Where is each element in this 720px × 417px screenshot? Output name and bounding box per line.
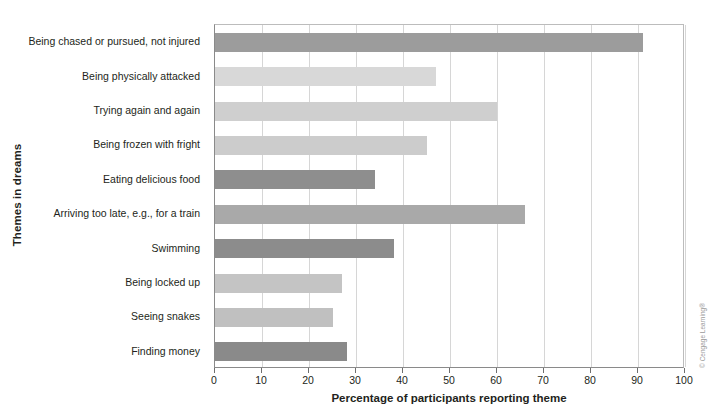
tick-mark-80 bbox=[590, 368, 591, 373]
gridline-90 bbox=[638, 25, 639, 367]
category-label: Being frozen with fright bbox=[28, 138, 200, 150]
tick-label-20: 20 bbox=[302, 374, 314, 386]
plot-area bbox=[214, 24, 684, 368]
category-label: Arriving too late, e.g., for a train bbox=[28, 207, 200, 219]
tick-mark-70 bbox=[543, 368, 544, 373]
category-label-list: Being chased or pursued, not injuredBein… bbox=[34, 24, 206, 368]
tick-mark-10 bbox=[261, 368, 262, 373]
bar bbox=[215, 205, 525, 224]
tick-label-70: 70 bbox=[537, 374, 549, 386]
tick-label-60: 60 bbox=[490, 374, 502, 386]
bar-chart-figure: Themes in dreams Being chased or pursued… bbox=[0, 0, 720, 417]
gridline-100 bbox=[685, 25, 686, 367]
tick-label-10: 10 bbox=[255, 374, 267, 386]
tick-label-40: 40 bbox=[396, 374, 408, 386]
bar bbox=[215, 239, 394, 258]
tick-mark-100 bbox=[684, 368, 685, 373]
category-label: Swimming bbox=[28, 242, 200, 254]
bar bbox=[215, 136, 427, 155]
bar bbox=[215, 102, 497, 121]
category-label: Finding money bbox=[28, 345, 200, 357]
tick-mark-30 bbox=[355, 368, 356, 373]
bar bbox=[215, 342, 347, 361]
tick-label-80: 80 bbox=[584, 374, 596, 386]
bar bbox=[215, 170, 375, 189]
tick-label-90: 90 bbox=[631, 374, 643, 386]
gridline-50 bbox=[450, 25, 451, 367]
category-label: Being locked up bbox=[28, 276, 200, 288]
tick-label-30: 30 bbox=[349, 374, 361, 386]
x-axis-tick-labels: 0102030405060708090100 bbox=[214, 374, 684, 390]
tick-label-50: 50 bbox=[443, 374, 455, 386]
copyright-credit: © Cengage Learning® bbox=[694, 290, 710, 380]
tick-mark-20 bbox=[308, 368, 309, 373]
tick-label-100: 100 bbox=[675, 374, 693, 386]
gridline-60 bbox=[497, 25, 498, 367]
tick-mark-50 bbox=[449, 368, 450, 373]
copyright-credit-text: © Cengage Learning® bbox=[699, 303, 706, 368]
y-axis-title: Themes in dreams bbox=[0, 0, 34, 390]
category-label: Trying again and again bbox=[28, 104, 200, 116]
tick-mark-60 bbox=[496, 368, 497, 373]
tick-label-0: 0 bbox=[211, 374, 217, 386]
tick-mark-90 bbox=[637, 368, 638, 373]
tick-mark-40 bbox=[402, 368, 403, 373]
bar bbox=[215, 33, 643, 52]
bar bbox=[215, 308, 333, 327]
tick-mark-0 bbox=[214, 368, 215, 373]
gridline-80 bbox=[591, 25, 592, 367]
y-axis-title-text: Themes in dreams bbox=[11, 144, 23, 247]
bar bbox=[215, 274, 342, 293]
category-label: Being physically attacked bbox=[28, 70, 200, 82]
gridline-70 bbox=[544, 25, 545, 367]
bar bbox=[215, 67, 436, 86]
x-axis-title: Percentage of participants reporting the… bbox=[214, 392, 684, 404]
category-label: Seeing snakes bbox=[28, 310, 200, 322]
category-label: Eating delicious food bbox=[28, 173, 200, 185]
category-label: Being chased or pursued, not injured bbox=[28, 35, 200, 47]
